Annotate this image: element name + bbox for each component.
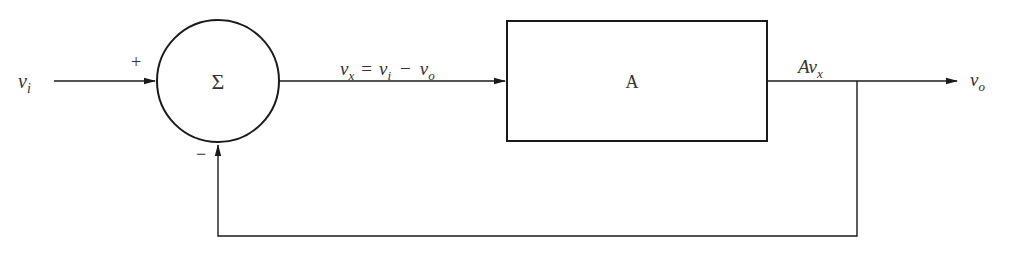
plus-sign: + <box>131 52 141 72</box>
gain-block-label: A <box>626 72 639 92</box>
feedback-block-diagram: vi + Σ − vx=vi−vo A Avx vo <box>0 0 1009 260</box>
amplified-signal-label: Avx <box>796 56 823 81</box>
output-label: vo <box>970 69 985 94</box>
feedback-path <box>218 81 857 236</box>
sigma-symbol: Σ <box>212 69 225 94</box>
error-signal-label: vx=vi−vo <box>340 58 435 83</box>
input-label: vi <box>18 70 31 96</box>
minus-sign: − <box>196 144 206 164</box>
